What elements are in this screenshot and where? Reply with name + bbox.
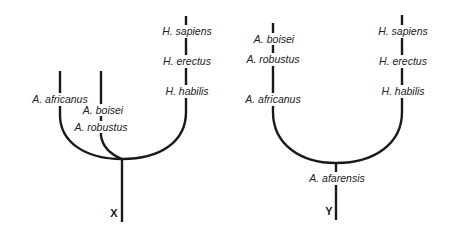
tree-x-label-h-erectus: H. erectus	[163, 55, 212, 67]
tree-x-label-h-habilis: H. habilis	[165, 85, 209, 97]
tree-y-label-a-afarensis: A. afarensis	[308, 172, 365, 184]
tree-x-label-a-africanus: A. africanus	[31, 93, 88, 105]
diagram-canvas: H. sapiens H. erectus H. habilis A. afri…	[0, 0, 452, 235]
tree-x-label-h-sapiens: H. sapiens	[162, 25, 212, 37]
tree-x-label: X	[110, 207, 118, 219]
tree-y-label-h-habilis: H. habilis	[381, 85, 425, 97]
tree-x: H. sapiens H. erectus H. habilis A. afri…	[26, 16, 217, 222]
tree-y-label-h-erectus: H. erectus	[379, 55, 428, 67]
tree-y-label-a-robustus: A. robustus	[245, 53, 300, 65]
tree-y-label-a-boisei: A. boisei	[253, 33, 295, 45]
tree-x-label-a-robustus: A. robustus	[73, 121, 128, 133]
tree-y-label-a-africanus: A. africanus	[244, 93, 301, 105]
tree-y: A. boisei A. robustus A. africanus H. sa…	[238, 15, 434, 220]
tree-x-label-a-boisei: A. boisei	[82, 104, 124, 116]
tree-y-label: Y	[325, 205, 333, 217]
tree-y-label-h-sapiens: H. sapiens	[378, 25, 428, 37]
